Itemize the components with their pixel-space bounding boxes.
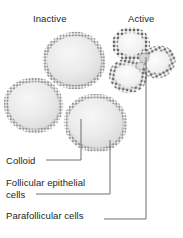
inactive-follicle-bottom-right — [66, 96, 125, 150]
label-colloid: Colloid — [6, 155, 35, 167]
label-follicular-line-2: cells — [6, 189, 25, 200]
label-follicular-epithelial-cells: Follicular epithelial cells — [6, 177, 85, 200]
label-parafollicular-cells: Parafollicular cells — [6, 210, 84, 222]
active-follicle-group — [109, 30, 177, 93]
inactive-follicle-group — [6, 34, 125, 150]
thyroid-follicle-diagram: Inactive Active — [0, 0, 183, 238]
follicle-illustration — [0, 0, 183, 238]
label-follicular-line-1: Follicular epithelial — [6, 177, 85, 188]
inactive-follicle-left — [6, 80, 61, 131]
inactive-follicle-top — [45, 34, 103, 87]
